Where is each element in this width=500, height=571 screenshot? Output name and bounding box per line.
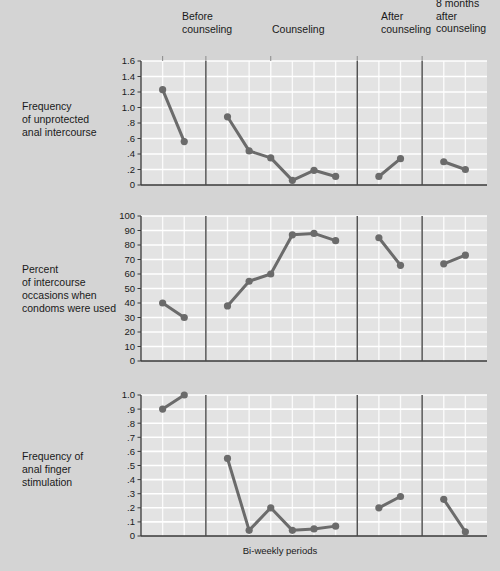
data-point bbox=[310, 230, 317, 237]
y-tick-label: 1.0 bbox=[122, 102, 135, 113]
data-point bbox=[246, 527, 253, 534]
y-tick-label: 100 bbox=[119, 210, 135, 221]
y-tick-label: 0 bbox=[130, 355, 135, 366]
data-point bbox=[224, 302, 231, 309]
data-point bbox=[375, 173, 382, 180]
data-point bbox=[440, 260, 447, 267]
y-tick-label: 80 bbox=[124, 239, 135, 250]
data-point bbox=[375, 504, 382, 511]
y-tick-label: 90 bbox=[124, 225, 135, 236]
data-point bbox=[462, 252, 469, 259]
data-point bbox=[159, 299, 166, 306]
data-point bbox=[267, 504, 274, 511]
data-point bbox=[181, 138, 188, 145]
data-point bbox=[310, 525, 317, 532]
data-point bbox=[397, 155, 404, 162]
data-point bbox=[267, 154, 274, 161]
data-point bbox=[440, 158, 447, 165]
y-tick-label: .8 bbox=[127, 418, 135, 429]
y-tick-label: .4 bbox=[127, 474, 135, 485]
y-tick-label: 20 bbox=[124, 326, 135, 337]
y-tick-label: 1.4 bbox=[122, 71, 135, 82]
data-point bbox=[375, 234, 382, 241]
data-point bbox=[462, 528, 469, 535]
data-point bbox=[224, 455, 231, 462]
panel-3: 0.1.2.3.4.5.6.7.8.91.0 bbox=[122, 389, 487, 541]
y-tick-label: .7 bbox=[127, 432, 135, 443]
data-point bbox=[224, 113, 231, 120]
data-point bbox=[267, 270, 274, 277]
y-tick-label: .6 bbox=[127, 446, 135, 457]
data-point bbox=[332, 237, 339, 244]
panel-2: 0102030405060708090100 bbox=[119, 210, 487, 366]
y-tick-label: .2 bbox=[127, 502, 135, 513]
data-point bbox=[397, 493, 404, 500]
data-point bbox=[159, 406, 166, 413]
y-tick-label: 70 bbox=[124, 254, 135, 265]
y-tick-label: 1.6 bbox=[122, 55, 135, 66]
data-point bbox=[246, 278, 253, 285]
y-tick-label: 40 bbox=[124, 297, 135, 308]
y-tick-label: .8 bbox=[127, 117, 135, 128]
y-tick-label: 1.2 bbox=[122, 86, 135, 97]
y-tick-label: .5 bbox=[127, 460, 135, 471]
y-tick-label: .9 bbox=[127, 404, 135, 415]
y-tick-label: 30 bbox=[124, 312, 135, 323]
data-point bbox=[462, 166, 469, 173]
data-point bbox=[159, 86, 166, 93]
figure-root: Before counseling Counseling After couns… bbox=[0, 0, 500, 571]
y-tick-label: 10 bbox=[124, 341, 135, 352]
y-tick-label: .1 bbox=[127, 516, 135, 527]
panel-1: 0.2.4.6.81.01.21.41.6 bbox=[122, 55, 487, 190]
data-point bbox=[289, 231, 296, 238]
y-tick-label: 50 bbox=[124, 283, 135, 294]
y-tick-label: .2 bbox=[127, 164, 135, 175]
data-point bbox=[397, 262, 404, 269]
y-tick-label: 0 bbox=[130, 530, 135, 541]
chart-canvas: 0.2.4.6.81.01.21.41.60102030405060708090… bbox=[0, 0, 500, 571]
data-point bbox=[332, 173, 339, 180]
y-tick-label: 0 bbox=[130, 179, 135, 190]
data-point bbox=[332, 523, 339, 530]
data-point bbox=[289, 527, 296, 534]
data-point bbox=[289, 177, 296, 184]
data-point bbox=[181, 391, 188, 398]
data-point bbox=[310, 167, 317, 174]
data-point bbox=[181, 314, 188, 321]
data-point bbox=[246, 147, 253, 154]
y-tick-label: .6 bbox=[127, 133, 135, 144]
y-tick-label: .4 bbox=[127, 148, 135, 159]
y-tick-label: 1.0 bbox=[122, 389, 135, 400]
data-point bbox=[440, 496, 447, 503]
y-tick-label: .3 bbox=[127, 488, 135, 499]
y-tick-label: 60 bbox=[124, 268, 135, 279]
